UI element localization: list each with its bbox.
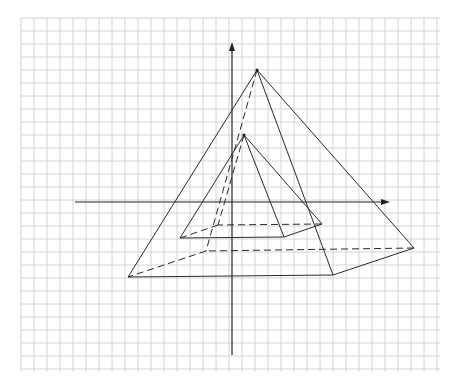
hidden-base-edge: [180, 225, 218, 238]
hidden-base-edge: [218, 224, 322, 225]
pyramids: [128, 68, 414, 277]
lateral-edge: [244, 135, 284, 237]
diagram-canvas: Two nested square pyramids drawn in obli…: [0, 0, 463, 388]
hidden-base-edge: [206, 248, 414, 251]
graph-paper-grid: [21, 18, 440, 372]
hidden-lateral-edge: [218, 135, 244, 225]
apex-point: [242, 133, 245, 136]
pyramid-diagram: [0, 0, 463, 388]
hidden-base-edge: [128, 251, 206, 277]
small-pyramid: [180, 133, 322, 238]
large-pyramid: [128, 68, 414, 277]
lateral-edge: [128, 70, 257, 277]
apex-point: [255, 68, 258, 71]
coordinate-axes: [75, 42, 390, 355]
lateral-edge: [257, 70, 414, 248]
base-edge: [128, 275, 333, 277]
arrow-up-icon: [229, 42, 235, 51]
